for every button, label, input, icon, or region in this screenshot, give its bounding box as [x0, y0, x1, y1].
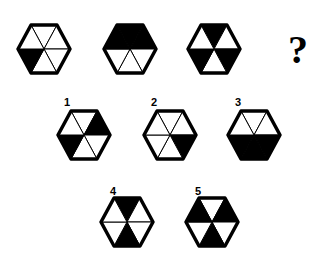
option-label-1: 1 — [64, 96, 70, 108]
option-4[interactable] — [99, 196, 155, 248]
option-label-3: 3 — [235, 96, 241, 108]
option-1[interactable] — [56, 109, 112, 161]
option-2[interactable] — [142, 109, 198, 161]
sequence-hexagon-1 — [16, 23, 72, 75]
question-mark: ? — [288, 30, 308, 70]
sequence-hexagon-2 — [102, 23, 158, 75]
option-5[interactable] — [184, 196, 240, 248]
option-3[interactable] — [226, 109, 282, 161]
sequence-hexagon-3 — [186, 23, 242, 75]
option-label-2: 2 — [151, 96, 157, 108]
